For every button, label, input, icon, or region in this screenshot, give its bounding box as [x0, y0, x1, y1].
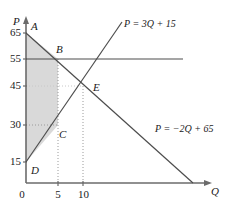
y-axis-arrow-icon [23, 16, 29, 24]
x-tick-label-5: 5 [51, 189, 65, 200]
point-label-B: B [56, 44, 63, 55]
point-label-D: D [31, 165, 39, 176]
demand-equation-label: P = −2Q + 65 [155, 124, 213, 134]
point-label-E: E [93, 82, 100, 93]
y-tick-label-55: 55 [2, 53, 21, 64]
economics-supply-demand-chart: P Q 65 55 45 30 15 0 5 10 A B C D E P = … [0, 0, 227, 210]
y-tick-label-45: 45 [2, 80, 21, 91]
y-tick-label-30: 30 [2, 119, 21, 130]
y-tick-label-65: 65 [2, 27, 21, 38]
y-tick-label-15: 15 [2, 156, 21, 167]
supply-equation-label: P = 3Q + 15 [124, 19, 176, 29]
point-label-C: C [59, 129, 66, 140]
x-axis-title: Q [211, 186, 219, 197]
surplus-region-ABCD [26, 33, 58, 162]
x-tick-label-0: 0 [15, 189, 29, 200]
point-label-A: A [31, 21, 38, 32]
x-tick-label-10: 10 [75, 189, 92, 200]
